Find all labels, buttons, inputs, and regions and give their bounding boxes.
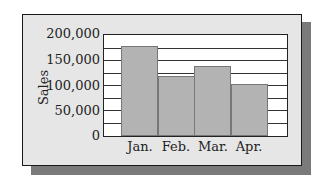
x-tick-jan: Jan.	[120, 139, 160, 154]
bar-feb	[158, 76, 195, 136]
y-tick-50000: 50,000	[55, 104, 101, 118]
y-tick-200000: 200,000	[46, 27, 100, 41]
x-tick-feb: Feb.	[156, 139, 196, 154]
y-tick-100000: 100,000	[46, 79, 100, 93]
y-tick-150000: 150,000	[46, 53, 100, 67]
x-tick-mar: Mar.	[193, 139, 233, 154]
bar-apr	[231, 84, 268, 137]
x-tick-apr: Apr.	[229, 139, 269, 154]
bar-mar	[194, 66, 231, 136]
y-tick-0: 0	[92, 129, 100, 143]
bar-jan	[121, 46, 158, 136]
plot-area	[103, 34, 288, 137]
